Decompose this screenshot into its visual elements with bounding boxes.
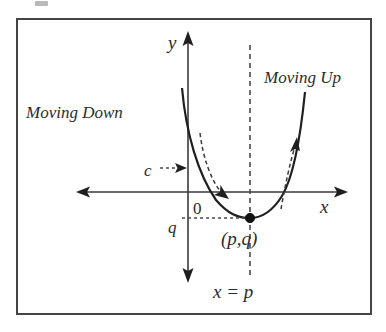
moving-down-label: Moving Down [25, 103, 123, 122]
motion-arrow-up-path [281, 150, 294, 209]
origin-label: 0 [193, 199, 202, 218]
q-value-label: q [168, 218, 177, 237]
x-axis-label: x [319, 196, 329, 217]
c-pointer-arrowhead [175, 163, 187, 173]
motion-arrow-down [200, 133, 229, 199]
vertex-point-marker [245, 213, 254, 222]
figure-container: Moving Down Moving Up y x 0 c q (p,q) x … [0, 0, 386, 332]
axis-of-symmetry-label: x = p [212, 281, 253, 302]
y-axis-label: y [166, 32, 177, 53]
c-intercept-label: c [144, 161, 152, 180]
vertex-point-label: (p,q) [221, 228, 257, 250]
moving-up-label: Moving Up [263, 68, 341, 87]
parabola-diagram: Moving Down Moving Up y x 0 c q (p,q) x … [0, 0, 386, 332]
motion-arrow-down-path [200, 133, 221, 192]
scan-artifact [35, 1, 48, 6]
c-intercept-pointer [160, 163, 187, 173]
figure-border [17, 19, 371, 314]
